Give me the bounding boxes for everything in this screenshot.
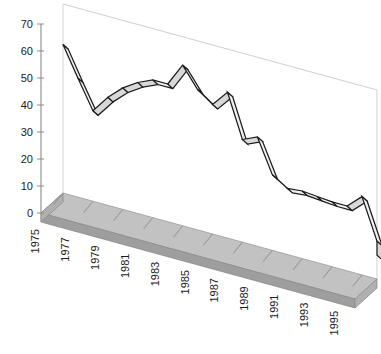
x-axis-tick-label-group: 1977 [59, 237, 71, 261]
y-axis-tick-label: 40 [21, 99, 33, 111]
ribbon-segment [63, 45, 83, 83]
x-axis-tick-label: 1985 [179, 270, 191, 294]
x-axis-tick-label-group: 1989 [238, 286, 250, 310]
x-axis-tick-label-group: 1981 [119, 254, 131, 278]
x-axis-tick-label: 1981 [119, 254, 131, 278]
x-axis-tick-label: 1991 [268, 295, 280, 319]
x-axis-tick-label-group: 1975 [29, 229, 41, 253]
ribbon-segment [183, 65, 203, 94]
x-axis-tick-label-group: 1987 [208, 278, 220, 302]
chart-canvas: 010203040506070 197519771979198119831985… [0, 0, 381, 354]
wall-top-edge [63, 4, 377, 90]
ribbon-segment [317, 197, 337, 207]
value-axis: 010203040506070 [21, 18, 44, 219]
x-axis-tick-label: 1975 [29, 229, 41, 253]
x-axis-tick-label-group: 1993 [298, 303, 310, 327]
ribbon-segment [228, 92, 248, 144]
y-axis-tick-label: 0 [27, 207, 33, 219]
ribbon-segment [257, 137, 277, 179]
x-axis-tick-label: 1989 [238, 286, 250, 310]
ribbon-segment [302, 191, 322, 201]
x-axis-tick-label: 1979 [89, 245, 101, 269]
y-axis-tick-label: 20 [21, 153, 33, 165]
y-axis-tick-label: 70 [21, 18, 33, 30]
x-axis-tick-label: 1977 [59, 237, 71, 261]
x-axis-tick-label: 1995 [328, 311, 340, 335]
x-axis-tick-label: 1983 [149, 262, 161, 286]
y-axis-tick-label: 60 [21, 45, 33, 57]
y-axis-tick-label: 30 [21, 126, 33, 138]
x-axis-tick-label-group: 1995 [328, 311, 340, 335]
chart-3d-line: 010203040506070 197519771979198119831985… [0, 0, 381, 354]
x-axis-tick-label-group: 1983 [149, 262, 161, 286]
x-axis-tick-label-group: 1985 [179, 270, 191, 294]
y-axis-tick-labels: 010203040506070 [21, 18, 33, 219]
x-axis-tick-label: 1987 [208, 278, 220, 302]
ribbon-end-cap [377, 241, 381, 260]
x-axis-tick-label-group: 1991 [268, 295, 280, 319]
x-axis-tick-label: 1993 [298, 303, 310, 327]
y-axis-tick-label: 10 [21, 180, 33, 192]
x-axis-tick-label-group: 1979 [89, 245, 101, 269]
ribbon-segment [362, 197, 381, 246]
y-axis-tick-label: 50 [21, 72, 33, 84]
